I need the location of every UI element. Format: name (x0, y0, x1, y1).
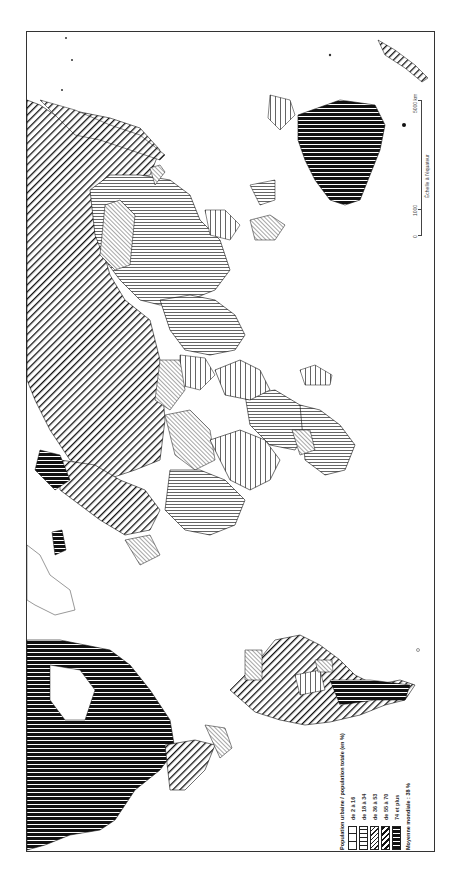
region-greenland (27, 545, 75, 615)
legend-item: de 2 à 16 (347, 690, 358, 850)
region-new-zealand (378, 40, 428, 82)
region-madagascar (300, 365, 332, 385)
legend-label: de 18 à 34 (361, 794, 367, 820)
legend: Population urbaine / population totale (… (338, 690, 438, 850)
region-peru (245, 650, 262, 680)
scale-line (421, 100, 422, 236)
island (329, 54, 331, 56)
region-africa-east (215, 360, 270, 400)
scale-bar: 0 1000 5000 km Échelle à l'équateur (412, 88, 442, 238)
island (61, 89, 63, 91)
region-australia (298, 100, 385, 205)
island (417, 649, 420, 652)
region-uk (52, 530, 66, 555)
scale-end: 5000 km (412, 94, 418, 113)
region-mongolia (100, 200, 135, 270)
scale-tick (418, 100, 422, 101)
region-iberia (125, 535, 160, 565)
region-indonesia (250, 180, 275, 205)
region-arabia (165, 410, 215, 470)
scale-tick (418, 209, 422, 210)
scale-mid: 1000 (412, 205, 418, 216)
region-paraguay (315, 660, 333, 672)
legend-label: de 2 à 16 (350, 797, 356, 820)
region-philippines (268, 95, 295, 130)
region-iran (155, 360, 185, 410)
legend-title: Population urbaine / population totale (… (338, 690, 347, 850)
legend-item: 74 et plus (391, 690, 402, 850)
region-india (160, 295, 245, 355)
world-average-note: Moyenne mondiale : 38 % (405, 690, 411, 850)
region-malaysia (250, 215, 285, 240)
island (402, 123, 406, 127)
legend-item: de 36 à 53 (369, 690, 380, 850)
region-mexico (165, 740, 215, 790)
region-north-america (27, 640, 175, 850)
island (65, 37, 67, 39)
legend-swatch (392, 826, 401, 850)
legend-swatch (381, 826, 390, 850)
legend-label: 74 et plus (394, 795, 400, 820)
legend-item: de 55 à 70 (380, 690, 391, 850)
region-pakistan (180, 355, 215, 390)
legend-label: de 55 à 70 (383, 794, 389, 820)
scale-tick (418, 235, 422, 236)
legend-label: de 36 à 53 (372, 794, 378, 820)
scale-caption: Échelle à l'équateur (424, 154, 430, 198)
island (71, 59, 73, 61)
legend-item: de 18 à 34 (358, 690, 369, 850)
legend-swatch (370, 826, 379, 850)
legend-swatch (359, 826, 368, 850)
legend-swatch (348, 826, 357, 850)
